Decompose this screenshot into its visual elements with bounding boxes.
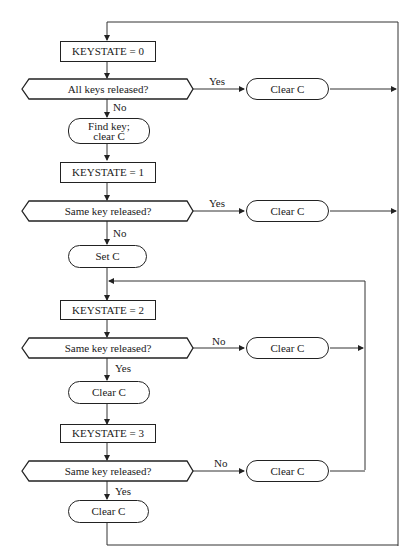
edge-label-same3-no: No xyxy=(214,458,227,469)
keystate-1-box: KEYSTATE = 1 xyxy=(60,162,156,183)
clear-c-all-yes-label: Clear C xyxy=(271,84,305,95)
clear-c-same3-yes: Clear C xyxy=(68,500,149,523)
keystate-3-box: KEYSTATE = 3 xyxy=(60,424,156,443)
set-c-label: Set C xyxy=(95,251,119,262)
clear-c-same2-yes-label: Clear C xyxy=(92,387,126,398)
find-key-label: Find key; clear C xyxy=(88,121,130,141)
keystate-0-box: KEYSTATE = 0 xyxy=(60,41,156,62)
keystate-2-label: KEYSTATE = 2 xyxy=(72,305,144,316)
clear-c-same2-yes: Clear C xyxy=(68,381,150,404)
decision-same-key-1: Same key released? xyxy=(29,201,187,221)
edge-label-same3-yes: Yes xyxy=(115,486,131,497)
decision-all-keys: All keys released? xyxy=(29,79,187,99)
set-c-node: Set C xyxy=(68,245,147,268)
edge-label-same1-yes: Yes xyxy=(209,198,225,209)
decision-all-keys-label: All keys released? xyxy=(68,84,149,95)
edge-label-all-yes: Yes xyxy=(209,76,225,87)
clear-c-same2-no-label: Clear C xyxy=(271,343,305,354)
edge-label-all-no: No xyxy=(113,102,126,113)
edge-label-same2-no: No xyxy=(212,336,225,347)
keystate-1-label: KEYSTATE = 1 xyxy=(72,167,144,178)
clear-c-same3-yes-label: Clear C xyxy=(92,506,126,517)
decision-same-key-3-label: Same key released? xyxy=(65,466,152,477)
clear-c-same1-yes: Clear C xyxy=(246,200,329,222)
decision-same-key-3: Same key released? xyxy=(29,461,187,481)
clear-c-same1-yes-label: Clear C xyxy=(271,206,305,217)
clear-c-all-yes: Clear C xyxy=(246,78,329,100)
clear-c-same3-no: Clear C xyxy=(246,460,329,482)
clear-c-same2-no: Clear C xyxy=(246,337,329,359)
keystate-2-box: KEYSTATE = 2 xyxy=(60,300,156,320)
edge-label-same1-no: No xyxy=(113,228,126,239)
decision-same-key-2: Same key released? xyxy=(29,338,187,358)
decision-same-key-2-label: Same key released? xyxy=(65,343,152,354)
decision-same-key-1-label: Same key released? xyxy=(65,206,152,217)
find-key-node: Find key; clear C xyxy=(68,118,150,144)
keystate-0-label: KEYSTATE = 0 xyxy=(72,46,144,57)
clear-c-same3-no-label: Clear C xyxy=(271,466,305,477)
edge-label-same2-yes: Yes xyxy=(115,363,131,374)
keystate-3-label: KEYSTATE = 3 xyxy=(72,428,144,439)
